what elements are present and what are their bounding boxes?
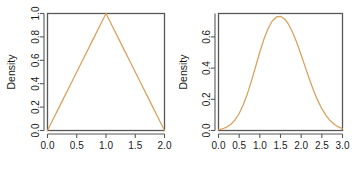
x-tick-label: 1.0 [253,140,267,151]
x-tick-label: 2.0 [294,140,308,151]
y-tick-label: 0.4 [30,76,41,90]
y-axis-title-triangular: Density [5,54,17,90]
x-axis-triangular: 0.00.51.01.52.0 [41,134,172,151]
x-tick-label: 1.0 [99,140,113,151]
x-tick-label: 0.0 [41,140,55,151]
plot-svg-triangular: 0.00.20.40.60.81.0 0.00.51.01.52.0 Densi… [0,0,179,172]
y-tick-label: 0.4 [201,61,212,75]
density-curve-triangular [48,14,165,131]
plot-panel-bell: 0.00.20.40.6 0.00.51.01.52.02.53.0 Densi… [179,0,358,172]
x-tick-label: 2.5 [315,140,329,151]
density-curve-bell [219,16,343,129]
plot-svg-bell: 0.00.20.40.6 0.00.51.01.52.02.53.0 Densi… [179,0,358,172]
x-tick-label: 0.0 [212,140,226,151]
x-tick-label: 3.0 [336,140,350,151]
x-tick-label: 1.5 [128,140,142,151]
density-plot-figure: 0.00.20.40.60.81.0 0.00.51.01.52.0 Densi… [0,0,358,172]
x-tick-label: 0.5 [70,140,84,151]
y-tick-label: 0.0 [30,123,41,137]
x-tick-label: 1.5 [274,140,288,151]
y-tick-label: 1.0 [30,6,41,20]
y-axis-title-bell: Density [179,54,189,90]
plot-panel-triangular: 0.00.20.40.60.81.0 0.00.51.01.52.0 Densi… [0,0,179,172]
x-tick-label: 0.5 [232,140,246,151]
x-tick-label: 2.0 [158,140,172,151]
y-tick-label: 0.6 [30,53,41,67]
y-axis-bell: 0.00.20.40.6 [201,14,215,138]
y-tick-label: 0.0 [201,123,212,137]
y-tick-label: 0.2 [30,100,41,114]
plot-frame [48,14,165,131]
y-tick-label: 0.8 [30,30,41,44]
y-axis-triangular: 0.00.20.40.60.81.0 [30,6,44,137]
y-tick-label: 0.2 [201,92,212,106]
y-tick-label: 0.6 [201,30,212,44]
x-axis-bell: 0.00.51.01.52.02.53.0 [212,134,350,151]
